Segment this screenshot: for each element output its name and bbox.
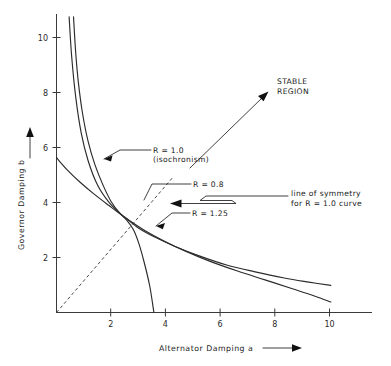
symmetry-leader-line [181,196,288,204]
y-tick-label-2: 2 [43,254,48,263]
y-tick-label-6: 6 [43,144,48,153]
x-axis-title-arrow-icon [292,344,302,352]
x-tick-label-8: 8 [272,320,277,329]
x-tick-label-2: 2 [108,320,113,329]
r-1-25-arrow-icon [156,223,165,229]
annotation-r-1-25: R = 1.25 [156,209,228,229]
symmetry-line [57,177,174,312]
r-1-25-label: R = 1.25 [192,209,228,218]
y-axis-title-group: Governor Damping b [17,127,34,250]
y-tick-label-8: 8 [43,89,48,98]
axis-group [57,14,373,313]
x-axis-title-group: Alternator Damping a [159,344,302,353]
r-0-8-leader-line [144,184,191,200]
annotation-symmetry: line of symmetry for R = 1.0 curve [170,189,362,208]
symmetry-label-line1: line of symmetry [291,189,361,198]
stable-region-label-line1: STABLE [277,77,307,86]
x-tick-labels: 2 4 6 8 10 [108,320,334,329]
r-1-25-leader-line [156,213,190,226]
curve-r-1-0 [74,17,154,313]
stable-region-leader-line [190,97,263,168]
r-1-0-label-line1: R = 1.0 [153,146,184,155]
y-tick-label-4: 4 [43,199,48,208]
y-tick-label-10: 10 [38,34,48,43]
chart-canvas: 2 4 6 8 10 2 4 6 8 10 R = 1.0 (isochroni… [0,0,391,366]
y-axis-title: Governor Damping b [17,160,26,251]
r-1-0-label-line2: (isochronism) [153,155,209,164]
x-tick-label-4: 4 [163,320,168,329]
x-tick-label-6: 6 [218,320,223,329]
symmetry-label-line2: for R = 1.0 curve [291,199,362,208]
y-axis-title-arrow-icon [26,127,34,137]
r-0-8-label: R = 0.8 [193,180,224,189]
x-tick-label-10: 10 [324,320,334,329]
stable-region-label-line2: REGION [277,87,309,96]
y-tick-labels: 2 4 6 8 10 [38,34,48,263]
x-axis-title: Alternator Damping a [159,344,253,353]
annotation-r-1-0: R = 1.0 (isochronism) [104,146,209,165]
curve-r-0-8 [69,17,331,286]
symmetry-arrow-icon [170,200,182,208]
stability-chart-figure: 2 4 6 8 10 2 4 6 8 10 R = 1.0 (isochroni… [0,0,391,366]
